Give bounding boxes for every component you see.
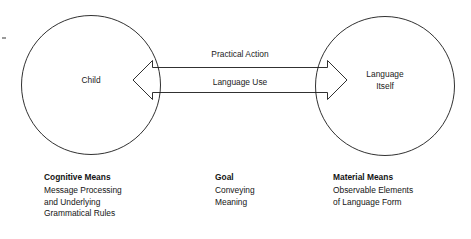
caption-cognitive-means-line3: Grammatical Rules	[44, 208, 122, 220]
caption-goal-title: Goal	[215, 172, 255, 184]
caption-material-means: Material Means Observable Elements of La…	[333, 172, 413, 208]
caption-goal-line1: Conveying	[215, 185, 255, 197]
diagram-canvas: Child Language Itself Practical Action L…	[0, 0, 471, 239]
caption-material-means-title: Material Means	[333, 172, 413, 184]
caption-goal: Goal Conveying Meaning	[215, 172, 255, 208]
node-label-child: Child	[81, 75, 100, 85]
caption-cognitive-means-line1: Message Processing	[44, 185, 122, 197]
caption-goal-line2: Meaning	[215, 197, 255, 209]
caption-material-means-line1: Observable Elements	[333, 185, 413, 197]
node-label-language-itself-line2: Itself	[376, 81, 394, 91]
caption-material-means-line2: of Language Form	[333, 197, 413, 209]
caption-cognitive-means-title: Cognitive Means	[44, 172, 122, 184]
arrow-label-practical-action: Practical Action	[211, 49, 269, 59]
caption-cognitive-means-line2: and Underlying	[44, 197, 122, 209]
arrow-label-language-use: Language Use	[213, 77, 268, 87]
node-circle-child[interactable]	[22, 16, 161, 155]
node-label-language-itself-line1: Language	[366, 69, 404, 79]
caption-cognitive-means: Cognitive Means Message Processing and U…	[44, 172, 122, 220]
